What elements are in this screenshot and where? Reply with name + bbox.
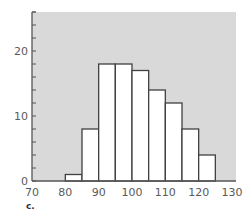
histogram-bar [82,129,99,181]
x-tick-label: 80 [58,186,72,199]
panel-label: c. [26,201,35,211]
x-tick-label: 130 [222,186,243,199]
histogram-bar [182,129,199,181]
x-tick-label: 90 [92,186,106,199]
x-tick-label: 110 [155,186,176,199]
x-tick-label: 100 [122,186,143,199]
histogram-chart: 01020 708090100110120130 [0,0,249,217]
histogram-bar [65,175,82,182]
x-tick-label: 120 [188,186,209,199]
x-tick-label: 70 [25,186,39,199]
y-tick-label: 10 [14,110,28,123]
x-axis: 708090100110120130 [25,181,243,199]
histogram-bar [149,90,166,181]
y-tick-label: 20 [14,45,28,58]
histogram-bar [99,64,116,181]
histogram-bar [132,71,149,182]
histogram-bar [115,64,132,181]
histogram-bar [165,103,182,181]
histogram-bar [199,155,216,181]
